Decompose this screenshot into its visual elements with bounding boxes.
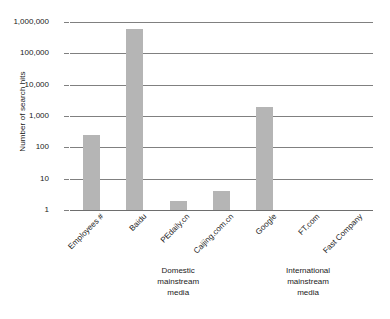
bar-google	[256, 107, 273, 210]
bar-series	[70, 22, 373, 210]
x-category-label-google: Google	[254, 212, 279, 237]
group-annotation-line-2: media	[263, 287, 353, 298]
group-annotation-domestic: Domesticmainstreammedia	[133, 265, 223, 298]
x-category-label-pedaily-cn: PEdaily.cn	[159, 212, 192, 245]
x-category-label-baidu: Baidu	[127, 212, 148, 233]
y-tick-label-1000: 1,000	[0, 112, 49, 120]
y-tick-mark-1000000	[64, 22, 69, 23]
group-annotation-line-2: media	[133, 287, 223, 298]
y-tick-mark-10000	[64, 85, 69, 86]
group-annotation-line-1: mainstream	[263, 276, 353, 287]
y-tick-label-10000: 10,000	[0, 81, 49, 89]
y-tick-mark-100	[64, 147, 69, 148]
group-annotation-line-0: Domestic	[133, 265, 223, 276]
y-tick-label-100: 100	[0, 143, 49, 151]
y-tick-mark-10	[64, 179, 69, 180]
group-annotation-international: Internationalmainstreammedia	[263, 265, 353, 298]
y-tick-label-10: 10	[0, 175, 49, 183]
y-tick-label-1: 1	[0, 206, 49, 214]
x-category-label-text: Caijing.com.cn	[191, 212, 234, 255]
bar-employees	[83, 135, 100, 210]
bar-caijing-com-cn	[213, 191, 230, 210]
x-category-label-text: Employees #	[66, 212, 105, 251]
y-tick-label-100000: 100,000	[0, 49, 49, 57]
x-category-label-text: Fast Company	[322, 212, 365, 255]
x-category-label-text: FT.com	[297, 212, 322, 237]
plot-area: 1,000,000100,00010,0001,000100101	[70, 22, 373, 210]
x-category-label-group: Employees #BaiduPEdaily.cnCaijing.com.cn…	[70, 212, 373, 272]
search-hits-bar-chart: Number of search hits 1,000,000100,00010…	[0, 0, 390, 319]
x-category-label-caijing-com-cn: Caijing.com.cn	[191, 212, 234, 255]
group-annotation-line-0: International	[263, 265, 353, 276]
x-category-label-fast-company: Fast Company	[322, 212, 365, 255]
x-category-label-ft-com: FT.com	[297, 212, 322, 237]
group-annotation-line-1: mainstream	[133, 276, 223, 287]
y-tick-label-1000000: 1,000,000	[0, 18, 49, 26]
bar-pedaily-cn	[170, 201, 187, 210]
gridline-1	[70, 210, 373, 211]
x-category-label-text: Google	[254, 212, 279, 237]
y-tick-mark-1	[64, 210, 69, 211]
bar-baidu	[126, 29, 143, 210]
x-category-label-text: Baidu	[127, 212, 148, 233]
y-tick-mark-100000	[64, 53, 69, 54]
x-category-label-text: PEdaily.cn	[159, 212, 192, 245]
y-tick-mark-1000	[64, 116, 69, 117]
x-category-label-employees: Employees #	[66, 212, 105, 251]
